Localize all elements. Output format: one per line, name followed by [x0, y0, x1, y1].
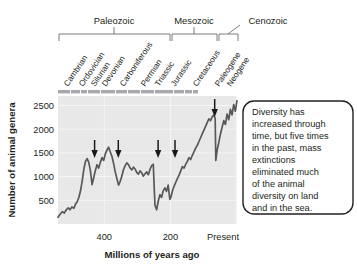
- era-label-paleozoic: Paleozoic: [94, 15, 135, 26]
- callout-line-7: of the animal: [252, 179, 305, 189]
- figure-root: Paleozoic Mesozoic Cenozoic Cambrian Ord…: [0, 0, 357, 270]
- era-leader-cenozoic: [228, 25, 240, 34]
- callout-line-1: Diversity has: [252, 107, 305, 117]
- callout-line-3: time, but five times: [252, 131, 329, 141]
- callout-line-4: in the past, mass: [252, 143, 322, 153]
- callout-line-2: increased through: [252, 119, 326, 129]
- y-axis: 2500 2000 1500 1000 500 Number of animal…: [6, 101, 54, 218]
- period-label-group: Cambrian Ordovician Silurian Devonian Ca…: [62, 40, 251, 88]
- y-tick-label-2500: 2500: [33, 101, 54, 111]
- x-tick-label-400: 400: [97, 232, 113, 242]
- y-axis-title: Number of animal genera: [6, 102, 17, 218]
- x-axis: 400 200 Present Millions of years ago: [97, 232, 240, 260]
- callout-line-8: diversity on land: [252, 191, 318, 201]
- period-band-strip: [58, 90, 198, 93]
- diversity-chart: Paleozoic Mesozoic Cenozoic Cambrian Ord…: [0, 0, 357, 270]
- y-tick-label-1500: 1500: [33, 148, 54, 158]
- plot-area: [58, 96, 237, 224]
- x-axis-title: Millions of years ago: [105, 249, 200, 260]
- plot-background: [58, 96, 237, 224]
- era-bracket-paleozoic: [59, 34, 170, 41]
- era-label-mesozoic: Mesozoic: [174, 15, 214, 26]
- y-tick-label-2000: 2000: [33, 125, 54, 135]
- era-bracket-mesozoic: [172, 34, 217, 41]
- era-bracket-group: Paleozoic Mesozoic Cenozoic: [59, 15, 288, 41]
- callout-line-6: eliminated much: [252, 167, 319, 177]
- y-tick-label-1000: 1000: [33, 172, 54, 182]
- x-tick-label-present: Present: [207, 232, 239, 242]
- y-tick-label-500: 500: [38, 196, 54, 206]
- callout-line-9: and in the sea.: [252, 203, 312, 213]
- callout-line-5: extinctions: [252, 155, 296, 165]
- era-bracket-cenozoic: [219, 34, 238, 41]
- callout-box: Diversity has increased through time, bu…: [243, 101, 353, 214]
- era-label-cenozoic: Cenozoic: [248, 15, 287, 26]
- x-tick-label-200: 200: [163, 232, 179, 242]
